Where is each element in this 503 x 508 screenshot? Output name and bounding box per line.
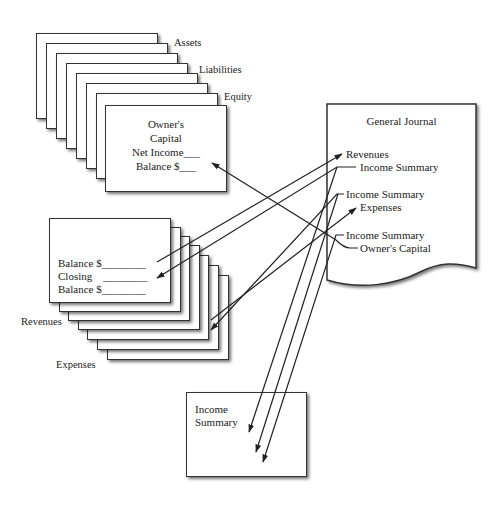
flow-arrows xyxy=(0,0,503,508)
